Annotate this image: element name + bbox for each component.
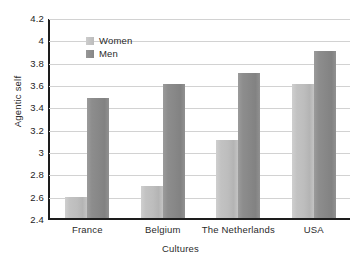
bar-belgium-men [163, 84, 185, 218]
legend-label-men: Men [99, 49, 118, 59]
bar-usa-women [292, 84, 314, 218]
y-tick-label: 3.8 [0, 59, 44, 69]
y-tick-label: 4.2 [0, 14, 44, 24]
legend-swatch-women-icon [86, 37, 94, 45]
bar-the-netherlands-women [216, 140, 238, 218]
y-tick-label: 4 [0, 37, 44, 47]
figure-caption [8, 0, 338, 8]
legend-item-women: Women [86, 35, 133, 46]
x-tick-label: The Netherlands [202, 224, 275, 235]
legend: Women Men [86, 35, 133, 59]
legend-item-men: Men [86, 48, 133, 59]
legend-swatch-men-icon [86, 50, 94, 58]
x-tick-label: Belgium [145, 224, 181, 235]
y-tick-label: 2.6 [0, 193, 44, 203]
bar-belgium-women [141, 186, 163, 218]
y-tick-label: 3.6 [0, 81, 44, 91]
y-tick-label: 3.4 [0, 104, 44, 114]
y-tick-label: 2.8 [0, 171, 44, 181]
x-axis-line [48, 218, 350, 220]
legend-label-women: Women [99, 36, 133, 46]
y-tick-label: 2.4 [0, 215, 44, 225]
bar-france-women [65, 197, 87, 218]
bar-france-men [87, 98, 109, 219]
bar-the-netherlands-men [238, 73, 260, 218]
x-tick-label: France [72, 224, 103, 235]
y-tick-label: 3 [0, 148, 44, 158]
bar-usa-men [314, 51, 336, 219]
x-axis-label: Cultures [0, 243, 361, 254]
y-tick-label: 3.2 [0, 126, 44, 136]
chart-figure: Agentic self 2.42.62.833.23.43.63.844.2 … [0, 0, 361, 262]
x-tick-label: USA [304, 224, 324, 235]
